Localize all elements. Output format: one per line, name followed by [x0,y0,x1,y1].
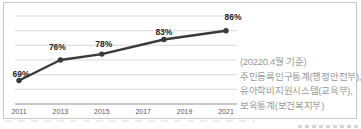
x-tick-label: 2013 [53,108,69,115]
data-point-label: 69% [12,69,29,79]
data-point-marker [58,57,63,62]
annotation-line-source3: 보육통계(보건복지부) [240,99,355,114]
trend-line [19,31,226,81]
source-annotation: (20220.4월 기준) 주민등록인구통계(행정안전부), 유아학비지원시스템… [240,55,355,113]
annotation-line-source2: 유아학비지원시스템(교육부), [240,84,355,99]
data-point-marker [99,51,104,56]
data-point-label: 83% [155,27,172,37]
x-tick-label: 2019 [177,108,193,115]
chart-panel: 69%76%78%83%86%201120132015201720192021 … [3,2,357,119]
x-tick-label: 2011 [11,108,26,115]
x-tick-label: 2021 [218,108,234,115]
data-point-label: 78% [95,39,112,49]
cropped-text-remnant-left [5,120,255,122]
annotation-line-date: (20220.4월 기준) [240,55,355,70]
data-point-label: 86% [224,12,241,22]
screenshot-root: 69%76%78%83%86%201120132015201720192021 … [0,0,361,129]
data-point-label: 76% [49,42,66,52]
cropped-text-remnant-right [298,125,358,128]
annotation-line-source1: 주민등록인구통계(행정안전부), [240,70,355,85]
data-point-marker [161,37,166,42]
x-tick-label: 2017 [135,108,151,115]
data-point-marker [16,78,21,83]
x-tick-label: 2015 [94,108,110,115]
data-point-marker [223,28,228,33]
